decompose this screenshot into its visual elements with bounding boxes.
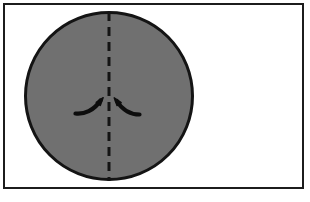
diagram-canvas	[0, 0, 310, 202]
figure-root: Circle with dashed vertical midline and …	[0, 0, 310, 202]
